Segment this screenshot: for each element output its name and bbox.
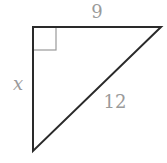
left-side-label: x	[13, 73, 23, 94]
right-angle-marker	[33, 27, 56, 50]
triangle-diagram: 9 x 12	[0, 0, 167, 163]
top-side-label: 9	[91, 1, 102, 22]
triangle-outline	[33, 27, 161, 151]
hypotenuse-label: 12	[104, 91, 127, 112]
triangle-figure: 9 x 12	[0, 0, 167, 163]
